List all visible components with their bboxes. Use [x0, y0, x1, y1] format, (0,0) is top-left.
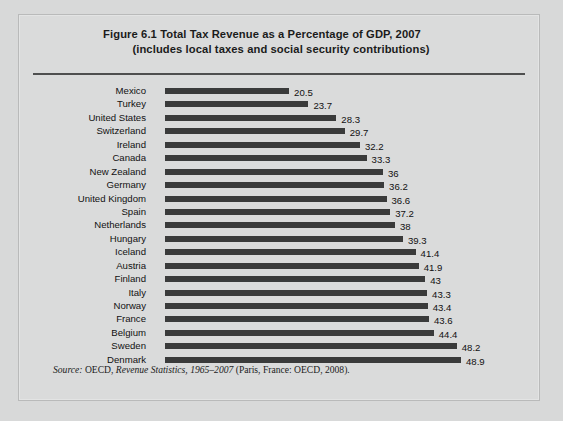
bar-track: 33.3 — [165, 155, 461, 161]
value-label: 48.2 — [462, 342, 481, 353]
category-label: Mexico — [19, 85, 146, 96]
category-label: Austria — [19, 260, 146, 271]
bar — [165, 142, 360, 148]
bar-track: 29.7 — [165, 128, 461, 134]
value-label: 43.4 — [433, 302, 452, 313]
bar — [165, 182, 384, 188]
bar-row: Sweden48.2 — [19, 340, 539, 353]
figure-panel: Figure 6.1 Total Tax Revenue as a Percen… — [18, 14, 540, 401]
bar-track: 48.9 — [165, 357, 461, 363]
bar-row: Spain37.2 — [19, 206, 539, 219]
bar-row: Ireland32.2 — [19, 139, 539, 152]
bar-track: 48.2 — [165, 343, 461, 349]
category-label: Belgium — [19, 327, 146, 338]
bar-track: 37.2 — [165, 209, 461, 215]
bar-row: Hungary39.3 — [19, 233, 539, 246]
figure-title-line-2: (includes local taxes and social securit… — [31, 42, 527, 57]
bar-track: 41.9 — [165, 263, 461, 269]
value-label: 23.7 — [313, 100, 332, 111]
bar-row: Turkey23.7 — [19, 98, 539, 111]
value-label: 36 — [388, 168, 399, 179]
value-label: 32.2 — [365, 141, 384, 152]
bar — [165, 196, 387, 202]
category-label: Sweden — [19, 340, 146, 351]
figure-title: Figure 6.1 Total Tax Revenue as a Percen… — [19, 27, 539, 56]
value-label: 48.9 — [466, 356, 485, 367]
bar-track: 36.6 — [165, 196, 461, 202]
bar-row: United Kingdom36.6 — [19, 193, 539, 206]
category-label: Netherlands — [19, 219, 146, 230]
category-label: Hungary — [19, 233, 146, 244]
value-label: 28.3 — [341, 114, 360, 125]
category-label: Norway — [19, 300, 146, 311]
value-label: 20.5 — [294, 87, 313, 98]
value-label: 36.6 — [392, 195, 411, 206]
bar — [165, 263, 419, 269]
bar — [165, 276, 425, 282]
bar-track: 43.4 — [165, 303, 461, 309]
figure-title-line-1: Figure 6.1 Total Tax Revenue as a Percen… — [31, 27, 527, 42]
category-label: Italy — [19, 287, 146, 298]
bar-track: 28.3 — [165, 115, 461, 121]
bar — [165, 101, 308, 107]
source-note: Source: OECD, Revenue Statistics, 1965–2… — [53, 364, 350, 375]
bar — [165, 316, 429, 322]
bar-track: 36 — [165, 169, 461, 175]
title-divider — [33, 73, 525, 75]
category-label: Finland — [19, 273, 146, 284]
value-label: 43 — [430, 275, 441, 286]
bar — [165, 290, 427, 296]
value-label: 33.3 — [372, 154, 391, 165]
bar — [165, 249, 416, 255]
bar-row: Canada33.3 — [19, 152, 539, 165]
bar-row: Switzerland29.7 — [19, 125, 539, 138]
source-rest: (Paris, France: OECD, 2008). — [233, 364, 349, 375]
category-label: United Kingdom — [19, 193, 146, 204]
category-label: Spain — [19, 206, 146, 217]
value-label: 41.4 — [421, 248, 440, 259]
category-label: United States — [19, 112, 146, 123]
bar-chart: Mexico20.5Turkey23.7United States28.3Swi… — [19, 85, 539, 360]
category-label: New Zealand — [19, 166, 146, 177]
bar — [165, 303, 428, 309]
bar-track: 43.6 — [165, 316, 461, 322]
bar-row: Iceland41.4 — [19, 246, 539, 259]
bar-track: 32.2 — [165, 142, 461, 148]
source-publisher: OECD, — [82, 364, 115, 375]
value-label: 37.2 — [395, 208, 414, 219]
bar — [165, 330, 434, 336]
bar-track: 39.3 — [165, 236, 461, 242]
bar-track: 41.4 — [165, 249, 461, 255]
bar — [165, 343, 457, 349]
bar — [165, 222, 395, 228]
bar — [165, 115, 336, 121]
bar — [165, 236, 403, 242]
category-label: Switzerland — [19, 125, 146, 136]
value-label: 29.7 — [350, 127, 369, 138]
bar-row: Belgium44.4 — [19, 327, 539, 340]
value-label: 36.2 — [389, 181, 408, 192]
bar — [165, 357, 461, 363]
source-label: Source: — [53, 364, 82, 375]
value-label: 41.9 — [424, 262, 443, 273]
bar-row: France43.6 — [19, 313, 539, 326]
bar — [165, 88, 289, 94]
bar-row: Finland43 — [19, 273, 539, 286]
bar-track: 43.3 — [165, 290, 461, 296]
bar-track: 23.7 — [165, 101, 461, 107]
bar-row: Italy43.3 — [19, 287, 539, 300]
bar-track: 20.5 — [165, 88, 461, 94]
bar-row: Mexico20.5 — [19, 85, 539, 98]
category-label: Turkey — [19, 98, 146, 109]
category-label: Iceland — [19, 246, 146, 257]
category-label: Germany — [19, 179, 146, 190]
value-label: 43.6 — [434, 315, 453, 326]
category-label: France — [19, 313, 146, 324]
bar — [165, 128, 345, 134]
source-title: Revenue Statistics, 1965–2007 — [116, 364, 234, 375]
value-label: 38 — [400, 221, 411, 232]
bar-row: Norway43.4 — [19, 300, 539, 313]
value-label: 44.4 — [439, 329, 458, 340]
bar-track: 44.4 — [165, 330, 461, 336]
bar-track: 36.2 — [165, 182, 461, 188]
